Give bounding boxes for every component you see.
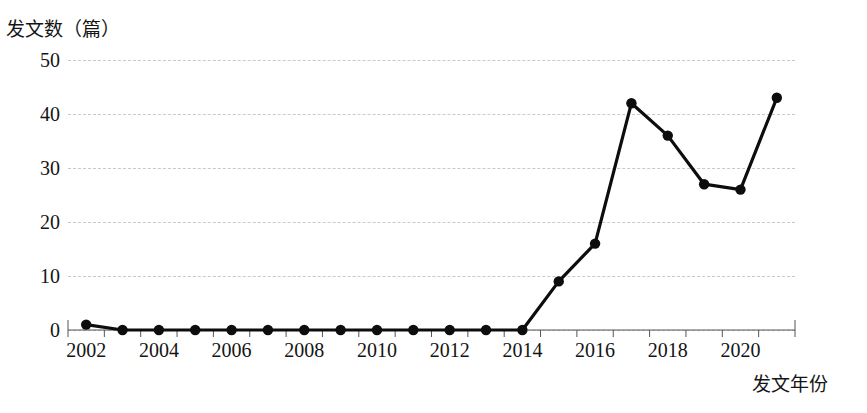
x-tick-label: 2020: [720, 340, 760, 360]
x-axis-title: 发文年份: [752, 375, 828, 394]
x-tick-label: 2004: [139, 340, 179, 360]
y-axis-title: 发文数（篇）: [6, 20, 120, 39]
x-tick-label: 2012: [430, 340, 470, 360]
y-tick-label: 10: [14, 266, 60, 286]
x-tick-label: 2008: [284, 340, 324, 360]
plot-area: [68, 60, 795, 330]
x-tick-label: 2006: [212, 340, 252, 360]
x-axis-ticks: [68, 330, 795, 337]
x-tick-label: 2002: [66, 340, 106, 360]
x-tick-label: 2010: [357, 340, 397, 360]
y-axis-tick-labels: 01020304050: [8, 60, 60, 330]
gridline: [68, 276, 795, 277]
y-tick-label: 50: [14, 50, 60, 70]
gridline: [68, 114, 795, 115]
x-tick-label: 2018: [648, 340, 688, 360]
x-axis-tick-labels: 2002200420062008201020122014201620182020: [68, 340, 795, 370]
x-tick-label: 2014: [502, 340, 542, 360]
y-tick-label: 30: [14, 158, 60, 178]
x-tick-label: 2016: [575, 340, 615, 360]
y-tick-label: 0: [14, 320, 60, 340]
gridline: [68, 168, 795, 169]
chart-figure: 发文数（篇） 01020304050 200220042006200820102…: [0, 0, 867, 413]
y-tick-label: 20: [14, 212, 60, 232]
gridline: [68, 222, 795, 223]
gridline: [68, 60, 795, 61]
y-tick-label: 40: [14, 104, 60, 124]
gridline: [68, 330, 795, 331]
